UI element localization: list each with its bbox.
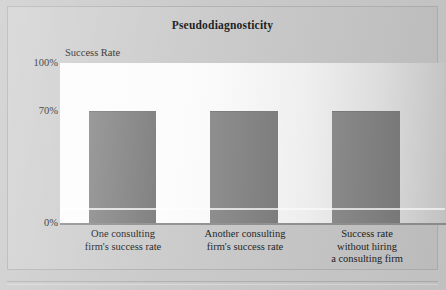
page-divider [7, 281, 438, 282]
bar-series-item [210, 111, 278, 223]
x-axis-category-line: Success rate [304, 228, 430, 241]
y-tick-0: 0% [16, 217, 58, 229]
x-axis-line [60, 223, 446, 225]
bar-series-item [89, 111, 156, 223]
page-title: Pseudodiagnosticity [8, 19, 437, 31]
plot-area [60, 63, 445, 223]
bar-series-item [332, 111, 400, 223]
x-axis-category-line: a consulting firm [304, 253, 430, 266]
y-tick-100: 100% [16, 57, 58, 69]
figure-frame: Pseudodiagnosticity Success Rate 100% 70… [7, 6, 438, 270]
page-divider-highlight [7, 284, 438, 285]
x-axis-category-label: Another consulting firm's success rate [182, 228, 308, 253]
x-axis-category-line: One consulting [61, 228, 185, 241]
x-axis-category-line: firm's success rate [61, 241, 185, 254]
x-axis-category-line: without hiring [304, 241, 430, 254]
x-axis-category-label: One consulting firm's success rate [61, 228, 185, 253]
x-axis-category-line: firm's success rate [182, 241, 308, 254]
y-tick-label: 70% [39, 105, 58, 116]
x-axis-category-line: Another consulting [182, 228, 308, 241]
x-axis-category-label: Success rate without hiring a consulting… [304, 228, 430, 266]
y-tick-70: 70% [16, 105, 58, 117]
y-tick-label: 100% [34, 57, 59, 68]
y-tick-label: 0% [44, 217, 58, 228]
figure-page: Pseudodiagnosticity Success Rate 100% 70… [0, 0, 446, 290]
y-axis-title: Success Rate [65, 47, 120, 58]
